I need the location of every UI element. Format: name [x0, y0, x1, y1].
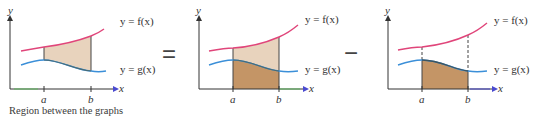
minus-operator: − — [344, 39, 358, 66]
g-curve-label: y = g(x) — [494, 63, 530, 76]
panel-area-under-f: y x a b y = f(x) y = g(x) — [195, 4, 341, 105]
f-curve-label: y = f(x) — [120, 15, 154, 28]
x-axis-label: x — [308, 82, 314, 94]
x-axis-label: x — [497, 82, 503, 94]
y-axis-label: y — [195, 4, 201, 16]
tick-label-a: a — [41, 93, 47, 105]
f-curve-label: y = f(x) — [305, 13, 339, 26]
tick-label-b: b — [465, 93, 471, 105]
tick-label-b: b — [88, 93, 94, 105]
f-curve — [398, 23, 487, 50]
tick-label-b: b — [276, 93, 282, 105]
tick-label-a: a — [230, 93, 236, 105]
g-curve-label: y = g(x) — [120, 63, 156, 76]
g-curve-label: y = g(x) — [305, 63, 341, 76]
panel-area-under-g: y x a b y = f(x) y = g(x) — [384, 4, 530, 105]
equals-operator: = — [162, 40, 176, 67]
y-axis-label: y — [384, 4, 390, 16]
f-curve-label: y = f(x) — [494, 14, 528, 27]
figure-caption: Region between the graphs — [9, 105, 123, 116]
panel-region-between: y x a b y = f(x) y = g(x) — [7, 4, 156, 105]
y-axis-label: y — [7, 4, 13, 16]
tick-label-a: a — [419, 93, 425, 105]
x-axis-label: x — [118, 82, 124, 94]
